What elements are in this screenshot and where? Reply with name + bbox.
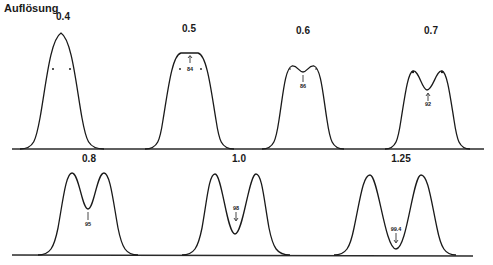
- panel-0-6: 0.6 86: [262, 25, 344, 149]
- dip-value: 95: [85, 221, 91, 227]
- dip-value: 98: [233, 205, 239, 211]
- bottom-baseline: [12, 255, 473, 256]
- panel-0-7: 0.7 92: [385, 25, 470, 149]
- resolution-label: 0.5: [182, 23, 196, 34]
- panel-1-25: 1.25 99.4: [334, 153, 456, 255]
- panel-0-8: 0.8 95: [38, 153, 138, 255]
- resolution-peaks-diagram: 0.4 0.5 84 0.6 86 0.7 92 0.8 95: [0, 0, 493, 265]
- dip-value: 86: [300, 83, 306, 89]
- dip-value: 84: [187, 66, 194, 72]
- resolution-label: 0.8: [82, 153, 96, 164]
- panel-0-4: 0.4: [20, 11, 104, 149]
- panel-0-5: 0.5 84: [145, 23, 234, 149]
- dip-value: 92: [425, 101, 431, 107]
- panel-1-0: 1.0 98: [182, 153, 290, 255]
- dip-value: 99.4: [391, 226, 403, 232]
- resolution-label: 0.6: [296, 25, 310, 36]
- resolution-label: 0.7: [424, 25, 438, 36]
- resolution-label: 0.4: [56, 11, 70, 22]
- resolution-label: 1.25: [391, 153, 411, 164]
- resolution-label: 1.0: [232, 153, 246, 164]
